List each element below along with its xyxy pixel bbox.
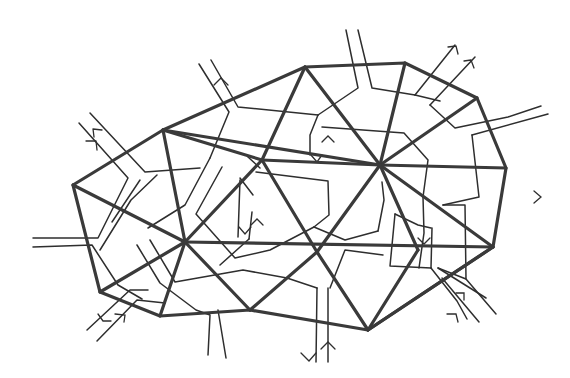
arrow-mid-up <box>251 219 263 225</box>
arrow-lower-left-1 <box>98 314 111 321</box>
arrow-center-up <box>322 136 334 142</box>
arrow-top-left <box>214 78 228 85</box>
arrow-right-lower <box>534 191 541 203</box>
triangulation-diagram <box>0 0 570 378</box>
arrow-lower-right-2 <box>447 314 458 322</box>
arrow-upper-left-1 <box>93 129 102 137</box>
diagram-canvas <box>0 0 570 378</box>
dual-corridors <box>33 30 548 362</box>
arrow-inner-right-down <box>418 238 430 244</box>
arrow-bottom-down <box>301 353 316 361</box>
